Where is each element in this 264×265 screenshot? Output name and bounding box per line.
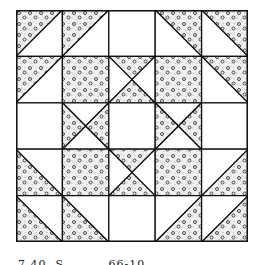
quilt-cell-plain xyxy=(109,103,155,149)
quilt-cell-print xyxy=(155,56,201,102)
quilt-cell-hst xyxy=(202,149,248,195)
quilt-cell-hst xyxy=(16,56,62,102)
quilt-cell-plain xyxy=(16,103,62,149)
quilt-cell-hst xyxy=(202,196,248,242)
quilt-cell-print xyxy=(62,56,108,102)
quilt-cell-plain xyxy=(109,10,155,56)
quilt-cell-hst xyxy=(202,56,248,102)
quilt-cell-hourglass xyxy=(155,103,201,149)
quilt-cell-hst xyxy=(62,196,108,242)
quilt-cell-plain xyxy=(109,196,155,242)
quilt-cell-hst xyxy=(16,196,62,242)
figure-caption: 7.40. S..........66-10 xyxy=(18,257,145,265)
quilt-cell-hourglass xyxy=(62,103,108,149)
quilt-cell-hst xyxy=(62,10,108,56)
quilt-cell-print xyxy=(62,149,108,195)
quilt-cell-hst xyxy=(16,149,62,195)
quilt-cell-hourglass xyxy=(109,149,155,195)
quilt-cell-hst xyxy=(202,10,248,56)
quilt-cell-print xyxy=(155,149,201,195)
quilt-pattern xyxy=(16,10,248,242)
quilt-cell-hourglass xyxy=(109,56,155,102)
quilt-cell-hst xyxy=(155,196,201,242)
quilt-cell-hst xyxy=(16,10,62,56)
quilt-cell-hst xyxy=(155,10,201,56)
quilt-cell-plain xyxy=(202,103,248,149)
